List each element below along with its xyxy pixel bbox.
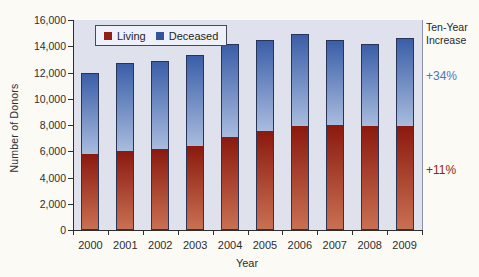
legend-label-deceased: Deceased bbox=[169, 30, 219, 42]
bar-segment-deceased-2006 bbox=[292, 35, 308, 126]
y-tick-mark bbox=[68, 230, 73, 231]
legend-item-deceased: Deceased bbox=[156, 30, 219, 42]
bar-2009 bbox=[396, 38, 414, 230]
y-tick-mark bbox=[68, 204, 73, 205]
y-tick-mark bbox=[68, 151, 73, 152]
ten-year-increase-line1: Ten-Year bbox=[426, 21, 468, 34]
legend-label-living: Living bbox=[117, 30, 146, 42]
bar-2002 bbox=[151, 61, 169, 230]
bar-2001 bbox=[116, 63, 134, 230]
y-tick-label: 0 bbox=[2, 224, 66, 236]
x-tick-label-2007: 2007 bbox=[323, 239, 347, 251]
bar-segment-living-2009 bbox=[397, 126, 413, 229]
x-tick-label-2009: 2009 bbox=[392, 239, 416, 251]
x-tick-label-2008: 2008 bbox=[357, 239, 381, 251]
ten-year-increase-label: Ten-Year Increase bbox=[426, 21, 468, 47]
y-tick-mark bbox=[68, 178, 73, 179]
y-tick-mark bbox=[68, 73, 73, 74]
x-tick-mark bbox=[143, 230, 144, 235]
x-tick-mark bbox=[108, 230, 109, 235]
y-tick-mark bbox=[68, 125, 73, 126]
x-tick-label-2005: 2005 bbox=[253, 239, 277, 251]
bar-segment-living-2008 bbox=[362, 126, 378, 229]
x-tick-label-2001: 2001 bbox=[113, 239, 137, 251]
x-tick-mark bbox=[387, 230, 388, 235]
plot-area bbox=[73, 20, 423, 230]
bar-2003 bbox=[186, 55, 204, 230]
living-swatch-icon bbox=[104, 32, 112, 40]
bar-segment-deceased-2008 bbox=[362, 45, 378, 126]
bar-2007 bbox=[326, 40, 344, 230]
x-tick-label-2003: 2003 bbox=[183, 239, 207, 251]
x-axis-title: Year bbox=[236, 257, 258, 269]
y-tick-label: 8,000 bbox=[2, 119, 66, 131]
bar-segment-living-2004 bbox=[222, 137, 238, 229]
y-tick-label: 4,000 bbox=[2, 172, 66, 184]
bar-2008 bbox=[361, 44, 379, 230]
y-tick-label: 16,000 bbox=[2, 14, 66, 26]
bar-segment-deceased-2009 bbox=[397, 39, 413, 126]
x-tick-mark bbox=[422, 230, 423, 235]
bar-segment-deceased-2003 bbox=[187, 56, 203, 147]
legend: Living Deceased bbox=[95, 25, 227, 46]
bar-segment-living-2006 bbox=[292, 126, 308, 229]
x-tick-mark bbox=[213, 230, 214, 235]
bar-segment-living-2007 bbox=[327, 125, 343, 229]
ten-year-increase-line2: Increase bbox=[426, 34, 468, 47]
bar-2005 bbox=[256, 40, 274, 230]
legend-item-living: Living bbox=[104, 30, 146, 42]
bar-segment-deceased-2002 bbox=[152, 62, 168, 149]
x-tick-label-2002: 2002 bbox=[148, 239, 172, 251]
y-tick-label: 12,000 bbox=[2, 67, 66, 79]
x-tick-mark bbox=[178, 230, 179, 235]
bar-segment-deceased-2000 bbox=[82, 74, 98, 153]
bar-segment-living-2002 bbox=[152, 149, 168, 229]
x-tick-mark bbox=[282, 230, 283, 235]
bar-segment-deceased-2007 bbox=[327, 41, 343, 125]
donor-chart-figure: Number of Donors Living Deceased Ten-Yea… bbox=[0, 0, 479, 277]
bar-segment-deceased-2005 bbox=[257, 41, 273, 132]
bar-segment-living-2005 bbox=[257, 131, 273, 229]
bar-2004 bbox=[221, 44, 239, 230]
y-tick-label: 10,000 bbox=[2, 93, 66, 105]
y-tick-mark bbox=[68, 20, 73, 21]
bar-segment-deceased-2001 bbox=[117, 64, 133, 151]
x-tick-mark bbox=[352, 230, 353, 235]
y-tick-label: 14,000 bbox=[2, 40, 66, 52]
bar-segment-living-2001 bbox=[117, 151, 133, 229]
bar-2000 bbox=[81, 73, 99, 230]
bar-2006 bbox=[291, 34, 309, 230]
living-percent-label: +11% bbox=[426, 163, 456, 177]
y-tick-label: 6,000 bbox=[2, 145, 66, 157]
y-axis-line bbox=[73, 20, 74, 231]
x-tick-mark bbox=[73, 230, 74, 235]
x-tick-label-2004: 2004 bbox=[218, 239, 242, 251]
x-tick-label-2000: 2000 bbox=[78, 239, 102, 251]
bar-segment-living-2000 bbox=[82, 154, 98, 229]
deceased-percent-label: +34% bbox=[426, 69, 457, 83]
x-tick-mark bbox=[248, 230, 249, 235]
y-tick-mark bbox=[68, 99, 73, 100]
bar-segment-living-2003 bbox=[187, 146, 203, 229]
x-tick-label-2006: 2006 bbox=[288, 239, 312, 251]
y-tick-mark bbox=[68, 46, 73, 47]
y-tick-label: 2,000 bbox=[2, 198, 66, 210]
deceased-swatch-icon bbox=[156, 32, 164, 40]
bar-segment-deceased-2004 bbox=[222, 45, 238, 137]
x-axis-line bbox=[69, 230, 423, 231]
x-tick-mark bbox=[317, 230, 318, 235]
